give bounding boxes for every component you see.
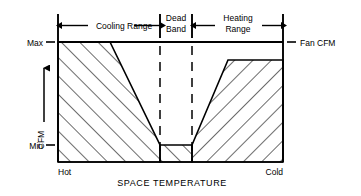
heating-range-annotation: Heating Range: [196, 13, 281, 34]
cfm-space-temperature-diagram: Max Min CFM Cooling Range Dead Band Heat…: [0, 0, 361, 196]
y-axis-label-cfm: CFM: [36, 131, 46, 149]
dead-band-airflow-region: [158, 143, 194, 164]
dead-band-annotation: Dead Band: [166, 13, 187, 34]
heating-airflow-region: [190, 58, 285, 164]
fan-cfm-label: Fan CFM: [300, 38, 335, 48]
heating-range-label-line2: Range: [225, 24, 250, 34]
dead-band-label-line2: Band: [166, 24, 186, 34]
y-tick-label-max: Max: [27, 38, 44, 48]
dead-band-label-line1: Dead: [166, 13, 187, 23]
figure-container: Max Min CFM Cooling Range Dead Band Heat…: [0, 0, 361, 196]
x-axis-label-cold: Cold: [266, 167, 284, 177]
x-axis-title: SPACE TEMPERATURE: [117, 178, 227, 188]
heating-range-label-line1: Heating: [223, 13, 253, 23]
cooling-airflow-region: [56, 40, 164, 164]
x-axis-label-hot: Hot: [58, 167, 72, 177]
cooling-range-annotation: Cooling Range: [62, 21, 160, 31]
